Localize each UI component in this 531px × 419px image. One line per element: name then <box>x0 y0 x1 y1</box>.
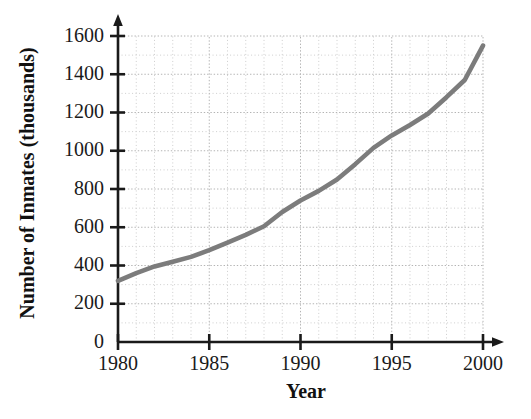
inmates-line-chart: 02004006008001000120014001600 1980198519… <box>0 0 531 419</box>
y-tick-label: 0 <box>94 330 104 352</box>
x-tick-label: 1990 <box>281 352 321 374</box>
y-tick-label: 1400 <box>64 62 104 84</box>
chart-figure: 02004006008001000120014001600 1980198519… <box>0 0 531 419</box>
y-tick-label: 1000 <box>64 138 104 160</box>
y-tick-label: 600 <box>74 215 104 237</box>
y-tick-label: 1600 <box>64 24 104 46</box>
x-tick-label: 1995 <box>372 352 412 374</box>
x-tick-label: 1980 <box>98 352 138 374</box>
x-axis-title: Year <box>286 380 326 402</box>
y-tick-label: 800 <box>74 177 104 199</box>
y-tick-label: 1200 <box>64 100 104 122</box>
x-tick-label: 2000 <box>463 352 503 374</box>
y-tick-label: 400 <box>74 253 104 275</box>
y-tick-label: 200 <box>74 291 104 313</box>
y-axis-title: Number of Inmates (thousands) <box>16 47 39 318</box>
x-tick-label: 1985 <box>189 352 229 374</box>
